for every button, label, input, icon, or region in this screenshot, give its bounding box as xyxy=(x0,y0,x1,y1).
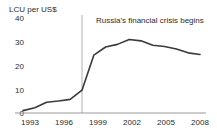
chart-container: LCU per US$ 40 30 20 10 0 1993 1996 1999… xyxy=(0,0,217,135)
plot-area xyxy=(0,0,217,135)
data-series-line xyxy=(23,39,200,110)
